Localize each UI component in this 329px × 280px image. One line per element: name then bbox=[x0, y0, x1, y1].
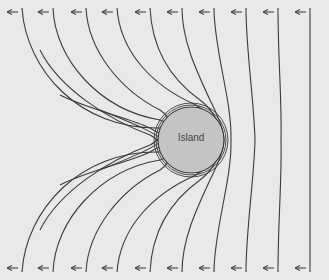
wave-refraction-diagram: Island bbox=[0, 0, 329, 280]
arrows-bottom bbox=[7, 265, 306, 270]
arrows-top bbox=[7, 9, 306, 14]
island-label: Island bbox=[158, 132, 224, 143]
